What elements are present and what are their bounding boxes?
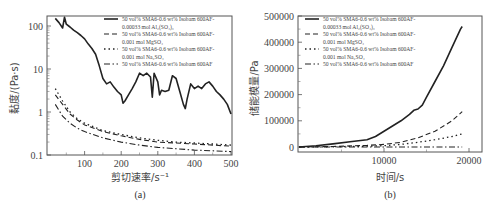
x-tick-label: 300 xyxy=(150,158,165,169)
chart-b-y-label: 储能模量/Pa xyxy=(248,60,260,115)
chart-a-x-ticks: 100200300400500 xyxy=(66,151,238,169)
chart-a: 0.1110100 100200300400500 50 vol% SMA6-0… xyxy=(8,16,239,201)
chart-a-series xyxy=(55,17,231,151)
legend-label: 50 vol% SMA6-0.6 wt% Isobam 600AF- xyxy=(122,16,214,22)
legend-label: 50 vol% SMA6-0.6 wt% Isobam 600AF xyxy=(323,61,413,67)
legend-label: 50 vol% SMA6-0.6 wt% Isobam 600AF- xyxy=(122,46,214,52)
legend-label-line2: 0.001 mol MgSO₄ xyxy=(122,39,163,45)
legend-label-line2: 0.001 mol Na₂SO₄ xyxy=(122,54,164,60)
x-tick-label: 400 xyxy=(187,158,202,169)
chart-b-legend: 50 vol% SMA6-0.6 wt% Isobam 600AF-0.0003… xyxy=(305,16,415,67)
y-tick-label: 0.1 xyxy=(31,150,44,161)
series-line xyxy=(55,95,231,146)
chart-b-caption: (b) xyxy=(384,189,396,201)
legend-label: 50 vol% SMA6-0.6 wt% Isobam 600AF- xyxy=(122,31,214,37)
chart-b-x-label: 时间/s xyxy=(376,171,405,183)
y-tick-label: 100000 xyxy=(264,115,294,126)
y-tick-label: 400000 xyxy=(264,37,294,48)
chart-b: 0100000200000300000400000500000 10000200… xyxy=(248,11,482,202)
chart-b-y-ticks: 0100000200000300000400000500000 xyxy=(264,11,302,153)
series-line xyxy=(299,27,462,148)
chart-b-x-ticks: 1000020000 xyxy=(342,148,482,166)
series-line xyxy=(55,89,231,146)
chart-a-x-label: 剪切速率/s⁻¹ xyxy=(111,171,169,183)
figure: 0.1110100 100200300400500 50 vol% SMA6-0… xyxy=(0,0,492,209)
chart-a-y-label: 黏度/(Pa·s) xyxy=(8,62,20,113)
y-tick-label: 0 xyxy=(289,142,294,153)
legend-label-line2: 0.00033 mol Al₂(SO₄)₃ xyxy=(323,24,375,31)
chart-a-legend: 50 vol% SMA6-0.6 wt% Isobam 600AF-0.0003… xyxy=(104,16,214,67)
x-tick-label: 10000 xyxy=(372,155,397,166)
x-tick-label: 500 xyxy=(224,158,239,169)
legend-label: 50 vol% SMA6-0.6 wt% Isobam 600AF- xyxy=(323,16,415,22)
chart-b-series xyxy=(299,27,462,148)
y-tick-label: 300000 xyxy=(264,63,294,74)
y-tick-label: 200000 xyxy=(264,89,294,100)
x-tick-label: 200 xyxy=(114,158,129,169)
legend-label: 50 vol% SMA6-0.6 wt% Isobam 600AF xyxy=(122,61,212,67)
x-tick-label: 100 xyxy=(77,158,92,169)
x-tick-label: 20000 xyxy=(457,155,482,166)
y-tick-label: 100 xyxy=(28,21,43,32)
legend-label: 50 vol% SMA6-0.6 wt% Isobam 600AF- xyxy=(323,31,415,37)
chart-a-y-ticks: 0.1110100 xyxy=(28,21,51,161)
y-tick-label: 1 xyxy=(38,107,43,118)
y-tick-label: 10 xyxy=(33,64,43,75)
legend-label-line2: 0.001 mol MgSO₄ xyxy=(323,39,364,45)
legend-label-line2: 0.00033 mol Al₂(SO₄)₃ xyxy=(122,24,174,31)
legend-label-line2: 0.001 mol Na₂SO₄ xyxy=(323,54,365,60)
legend-label: 50 vol% SMA6-0.6 wt% Isobam 600AF- xyxy=(323,46,415,52)
chart-a-caption: (a) xyxy=(134,189,145,201)
y-tick-label: 500000 xyxy=(264,11,294,22)
series-line xyxy=(299,112,462,147)
